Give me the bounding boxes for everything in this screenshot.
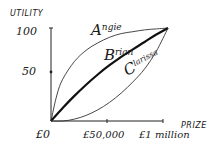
x-tick-label-0: £0 <box>35 128 50 141</box>
x-tick-label-50000: £50,000 <box>82 129 125 140</box>
series-label-angie-rest: ngie <box>102 22 122 32</box>
series-label-brian-rest: rian <box>115 47 134 57</box>
series-line-clarissa <box>51 28 168 121</box>
y-tick-50-dot <box>50 71 53 74</box>
y-axis-label: UTILITY <box>10 9 44 18</box>
series-line-brian <box>51 28 168 121</box>
series-line-angie <box>51 28 168 121</box>
series-label-clarissa-rest: larissa <box>132 47 160 68</box>
y-tick-label-50: 50 <box>22 65 36 78</box>
series-label-brian-initial: B <box>103 46 115 64</box>
series-label-angie-initial: A <box>89 21 102 39</box>
utility-chart: UTILITY PRIZE 100 50 £0 £50,000 £1 milli… <box>0 0 224 150</box>
y-tick-label-100: 100 <box>16 25 37 38</box>
series-label-angie: Angie <box>89 21 122 39</box>
x-tick-label-1million: £1 million <box>138 129 190 140</box>
